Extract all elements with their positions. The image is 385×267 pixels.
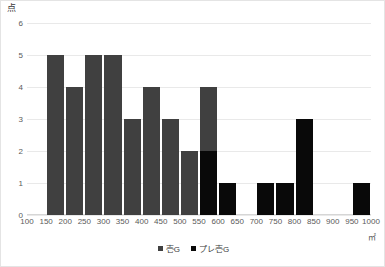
legend-item-series-b[interactable]: プレ壱G [191,243,229,254]
gridline [27,215,371,216]
bar[interactable] [85,55,102,215]
x-axis-tick-label: 250 [78,217,91,226]
x-axis-tick-label: 550 [192,217,205,226]
bar[interactable] [124,119,141,215]
y-axis-tick-label: 2 [19,147,23,156]
y-axis-tick-label: 3 [19,115,23,124]
y-axis-tick-label: 4 [19,83,23,92]
bar[interactable] [200,151,217,215]
chart-legend: 壱G プレ壱G [1,243,385,254]
x-axis-tick-label: 100 [20,217,33,226]
x-axis-tick-label: 650 [231,217,244,226]
x-axis-tick-label: 450 [154,217,167,226]
gridline [27,55,371,56]
bar[interactable] [47,55,64,215]
bar[interactable] [353,183,370,215]
y-axis-title: 点 [7,3,16,14]
x-axis-tick-label: 500 [173,217,186,226]
gridline [27,23,371,24]
bar[interactable] [143,87,160,215]
x-axis-tick-label: 150 [39,217,52,226]
x-axis-tick-label: 400 [135,217,148,226]
x-axis-tick-label: 800 [288,217,301,226]
x-axis-unit-label: ㎡ [368,231,376,242]
x-axis-tick-label: 1000 [362,217,380,226]
x-axis-tick-label: 300 [97,217,110,226]
x-axis-tick-label: 900 [326,217,339,226]
y-axis-tick-label: 1 [19,179,23,188]
legend-swatch-icon-series-a [158,246,163,251]
x-axis-tick-label: 600 [211,217,224,226]
bar[interactable] [162,119,179,215]
bar[interactable] [276,183,293,215]
legend-swatch-icon-series-b [191,246,196,251]
x-axis-tick-label: 700 [250,217,263,226]
bar[interactable] [104,55,121,215]
plot-area: 0123456 [27,23,371,215]
legend-label-series-a: 壱G [166,243,180,254]
bar[interactable] [257,183,274,215]
bar[interactable] [66,87,83,215]
x-axis-tick-label: 950 [345,217,358,226]
legend-item-series-a[interactable]: 壱G [158,243,180,254]
x-axis-tick-label: 200 [59,217,72,226]
x-axis-tick-label: 750 [269,217,282,226]
x-axis-tick-label: 850 [307,217,320,226]
bar[interactable] [296,119,313,215]
bar[interactable] [219,183,236,215]
legend-label-series-b: プレ壱G [199,243,229,254]
chart-container: 点 0123456 100150200250300350400450500550… [0,0,385,267]
bar[interactable] [181,151,198,215]
y-axis-tick-label: 6 [19,19,23,28]
x-axis-tick-label: 350 [116,217,129,226]
y-axis-tick-label: 5 [19,51,23,60]
x-axis-tick-labels: 1001502002503003504004505005506006507007… [27,217,371,229]
